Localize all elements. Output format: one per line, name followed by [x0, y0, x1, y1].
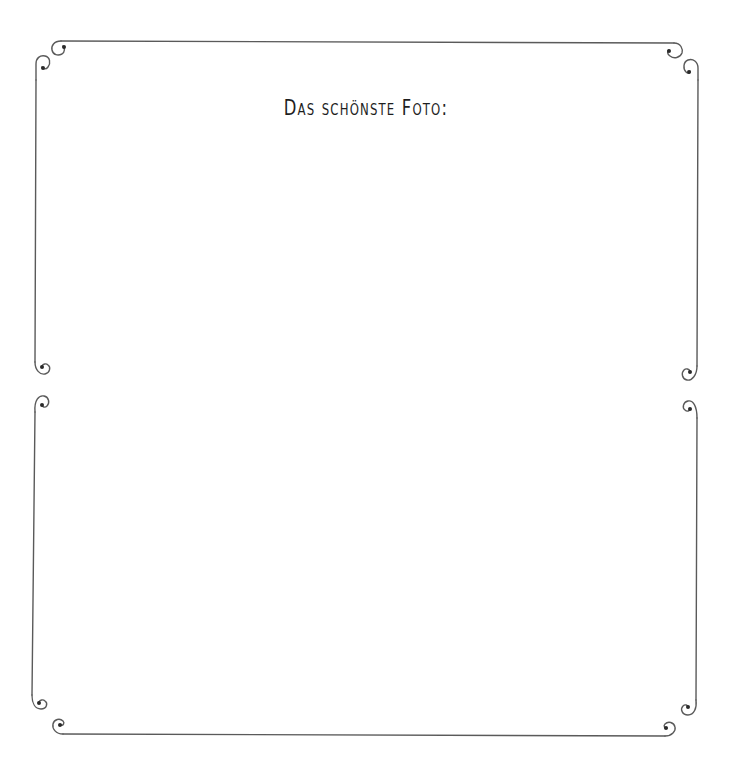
right-border-upper-line: [697, 80, 698, 366]
left-border-upper-line: [35, 80, 36, 362]
right-border-lower-line: [696, 418, 697, 700]
page-title: Das schönste Foto:: [81, 96, 652, 120]
top-right-side-curl-ornament-icon: [684, 59, 698, 80]
left-border-lower-line: [32, 412, 35, 695]
top-photo-area: [40, 130, 692, 355]
bottom-border-line: [63, 734, 665, 736]
top-border-line: [61, 41, 674, 43]
bottom-left-curl-ornament-icon: [53, 719, 64, 734]
bottom-photo-area: [40, 420, 692, 700]
